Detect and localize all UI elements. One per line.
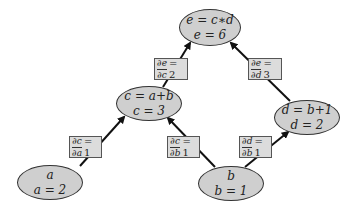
label-de-dd: ∂e ∂d = 3 <box>248 58 282 80</box>
node-a: a a = 2 <box>17 165 83 200</box>
node-a-expr: a <box>46 168 53 183</box>
fraction: ∂c ∂a <box>72 136 82 158</box>
fraction: ∂e ∂d <box>251 58 261 80</box>
fraction: ∂e ∂c <box>157 58 167 80</box>
node-e-value: e = 6 <box>194 28 226 43</box>
node-b: b b = 1 <box>198 166 264 201</box>
label-dd-db: ∂d ∂b = 1 <box>239 136 272 158</box>
node-e: e = c∗d e = 6 <box>179 9 241 46</box>
node-c-expr: c = a+b <box>124 89 173 104</box>
node-b-value: b = 1 <box>215 184 248 199</box>
node-b-expr: b <box>227 169 235 184</box>
node-d-expr: d = b+1 <box>282 103 333 118</box>
node-c-value: c = 3 <box>133 104 165 119</box>
fraction: ∂c ∂b <box>170 136 180 158</box>
node-c: c = a+b c = 3 <box>116 86 182 121</box>
label-de-dc: ∂e ∂c = 2 <box>154 58 188 80</box>
label-dc-db: ∂c ∂b = 1 <box>167 136 200 158</box>
node-d: d = b+1 d = 2 <box>274 100 340 135</box>
node-e-expr: e = c∗d <box>186 13 233 28</box>
fraction: ∂d ∂b <box>242 136 252 158</box>
label-dc-da: ∂c ∂a = 1 <box>69 136 102 158</box>
node-a-value: a = 2 <box>34 183 66 198</box>
node-d-value: d = 2 <box>291 118 324 133</box>
